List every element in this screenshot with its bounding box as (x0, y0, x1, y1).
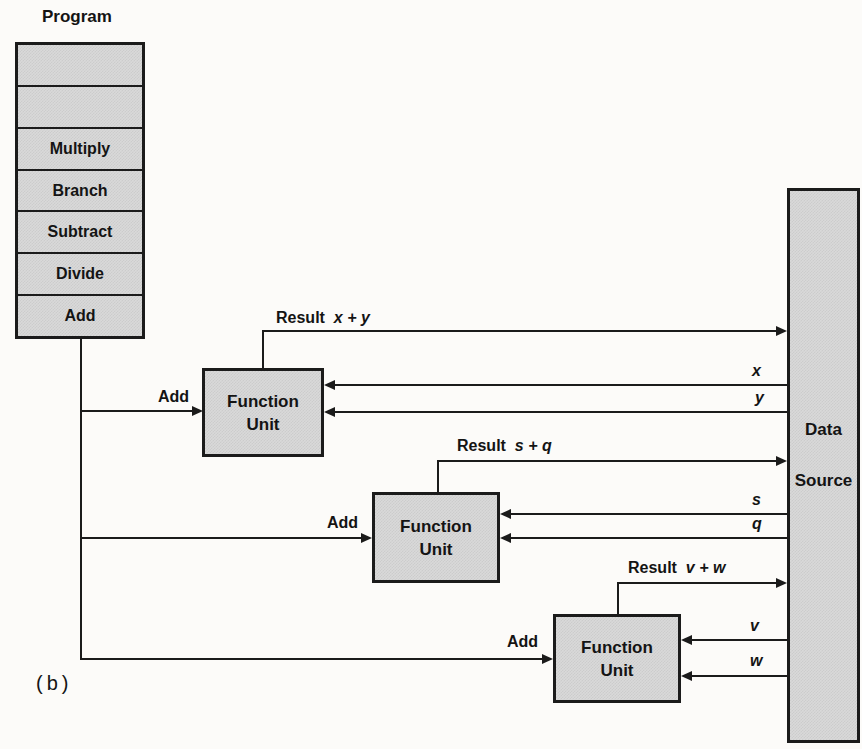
arrowhead-left-icon (500, 533, 511, 543)
program-dispatch-trunk-line (80, 339, 82, 660)
add-edge-1-label: Add (158, 388, 189, 405)
arrowhead-left-icon (324, 407, 335, 417)
result-edge-1-line (262, 330, 776, 332)
result-3-prefix: Result (628, 559, 677, 576)
result-edge-2-vline (437, 460, 439, 492)
function-unit-3: Function Unit (553, 614, 681, 703)
arrowhead-left-icon (681, 671, 692, 681)
arrowhead-right-icon (776, 456, 787, 466)
data-source-label-line2: Source (795, 472, 853, 489)
program-cell-branch: Branch (18, 169, 142, 211)
arrowhead-left-icon (681, 635, 692, 645)
result-edge-2-label: Result s + q (457, 437, 552, 454)
operand-v-label: v (750, 618, 759, 634)
operand-q-label: q (752, 516, 762, 532)
result-edge-3-label: Result v + w (628, 559, 725, 576)
data-source-box: Data Source (787, 188, 860, 743)
program-cell-divide: Divide (18, 252, 142, 294)
operand-s-label: s (752, 492, 761, 508)
program-cell-multiply: Multiply (18, 127, 142, 169)
result-edge-1-vline (262, 330, 264, 368)
add-edge-2-line (80, 537, 362, 539)
program-cell-empty-2 (18, 85, 142, 127)
function-unit-3-label-line2: Unit (600, 659, 633, 682)
add-edge-1-line (80, 410, 193, 412)
result-1-expression: x + y (334, 309, 370, 326)
result-1-prefix: Result (276, 309, 325, 326)
function-unit-1-label-line1: Function (227, 390, 299, 413)
arrowhead-right-icon (192, 406, 203, 416)
program-title: Program (42, 8, 112, 25)
operand-x-label: x (752, 363, 761, 379)
program-cell-add: Add (18, 294, 142, 336)
function-unit-1-label-line2: Unit (246, 413, 279, 436)
result-2-expression: s + q (515, 437, 552, 454)
function-unit-2: Function Unit (372, 492, 500, 583)
figure-caption: (b) (36, 672, 72, 695)
operand-y-line (333, 411, 787, 413)
result-edge-1-label: Result x + y (276, 309, 370, 326)
program-cell-empty-1 (18, 45, 142, 85)
result-3-expression: v + w (686, 559, 726, 576)
operand-w-label: w (750, 653, 762, 669)
function-unit-2-label-line2: Unit (419, 538, 452, 561)
operand-w-line (690, 675, 787, 677)
arrowhead-right-icon (542, 654, 553, 664)
result-edge-3-line (617, 582, 776, 584)
arrowhead-left-icon (324, 380, 335, 390)
result-edge-3-vline (617, 582, 619, 614)
function-unit-3-label-line1: Function (581, 636, 653, 659)
flow-diagram: Program Multiply Branch Subtract Divide … (0, 0, 862, 749)
arrowhead-right-icon (776, 578, 787, 588)
result-edge-2-line (437, 460, 776, 462)
operand-q-line (509, 537, 787, 539)
arrowhead-left-icon (500, 509, 511, 519)
operand-x-line (333, 384, 787, 386)
arrowhead-right-icon (776, 326, 787, 336)
function-unit-2-label-line1: Function (400, 515, 472, 538)
operand-y-label: y (755, 390, 764, 406)
program-box: Multiply Branch Subtract Divide Add (15, 42, 145, 339)
result-2-prefix: Result (457, 437, 506, 454)
operand-v-line (690, 639, 787, 641)
program-cell-subtract: Subtract (18, 210, 142, 252)
arrowhead-right-icon (361, 533, 372, 543)
add-edge-3-label: Add (507, 633, 538, 650)
add-edge-3-line (80, 658, 543, 660)
function-unit-1: Function Unit (202, 368, 324, 457)
operand-s-line (509, 513, 787, 515)
add-edge-2-label: Add (327, 514, 358, 531)
data-source-label-line1: Data (805, 421, 842, 438)
